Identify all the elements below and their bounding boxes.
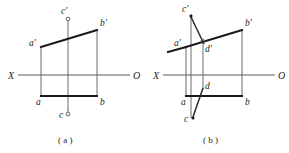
panel-b-label-d-prime: d' xyxy=(205,44,213,54)
panel-b-point-c-marker xyxy=(191,116,194,119)
panel-b-label-c-prime: c' xyxy=(182,4,189,14)
panel-a-label-a-prime: a' xyxy=(29,38,37,48)
panel-a-point-c-prime-marker xyxy=(66,17,70,21)
panel-b-line-ab-prime xyxy=(186,30,242,47)
panel-a-axis-label-x: X xyxy=(7,70,15,81)
projection-drawing: X O a' b' c' a b c ( a ) xyxy=(0,0,289,153)
panel-b-axis-label-x: X xyxy=(152,70,160,81)
panel-a-label-a: a xyxy=(36,97,41,107)
panel-a-label-b-prime: b' xyxy=(100,18,108,28)
panel-a-label-c-prime: c' xyxy=(61,6,68,16)
panel-a-point-c-marker xyxy=(66,112,70,116)
panel-b: X O a' b' c' d' a b c d ( b ) xyxy=(152,4,285,145)
panel-b-axis-label-o: O xyxy=(278,70,285,81)
panel-b-label-a: a xyxy=(181,97,186,107)
panel-b-line-cd xyxy=(193,88,203,117)
panel-b-label-c: c xyxy=(184,114,189,124)
figure-page: X O a' b' c' a b c ( a ) xyxy=(0,0,289,153)
panel-b-label-b: b xyxy=(245,97,250,107)
panel-a: X O a' b' c' a b c ( a ) xyxy=(7,6,140,145)
panel-a-caption: ( a ) xyxy=(58,135,73,145)
panel-b-label-d: d xyxy=(205,81,210,91)
panel-a-label-b: b xyxy=(100,97,105,107)
panel-b-label-a-prime: a' xyxy=(174,38,182,48)
panel-a-line-ab-prime xyxy=(41,30,97,47)
panel-b-point-c-prime-marker xyxy=(189,14,192,17)
panel-a-label-c: c xyxy=(59,110,64,120)
panel-a-axis-label-o: O xyxy=(133,70,140,81)
panel-b-label-b-prime: b' xyxy=(245,18,253,28)
panel-b-caption: ( b ) xyxy=(203,135,218,145)
